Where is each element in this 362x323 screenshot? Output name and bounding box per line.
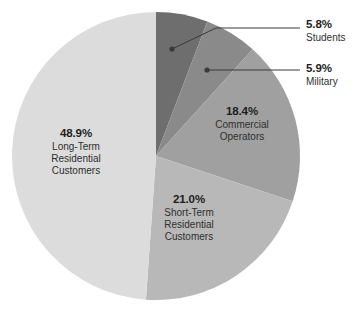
slice-label-short-term-residential-customers: 21.0% Short-Term Residential Customers: [133, 192, 245, 244]
callout-percent-students: 5.8%: [306, 17, 345, 31]
slice-percent-long-term: 48.9%: [22, 126, 130, 140]
slice-name-short-term: Short-Term Residential Customers: [133, 207, 245, 244]
callout-dot-students: [169, 46, 174, 51]
slice-name-line: Customers: [22, 165, 130, 177]
slice-name-line: Operators: [196, 131, 288, 143]
slice-name-line: Short-Term: [133, 207, 245, 219]
callout-name-students: Students: [306, 32, 345, 44]
slice-name-line: Commercial: [196, 119, 288, 131]
slice-name-line: Residential: [133, 219, 245, 231]
slice-percent-commercial: 18.4%: [196, 104, 288, 118]
slice-label-long-term-residential-customers: 48.9% Long-Term Residential Customers: [22, 126, 130, 178]
slice-name-long-term: Long-Term Residential Customers: [22, 141, 130, 178]
slice-percent-short-term: 21.0%: [133, 192, 245, 206]
slice-name-line: Long-Term: [22, 141, 130, 153]
pie-chart: 48.9% Long-Term Residential Customers 21…: [0, 0, 362, 323]
slice-name-commercial: Commercial Operators: [196, 119, 288, 143]
slice-label-commercial-operators: 18.4% Commercial Operators: [196, 104, 288, 143]
callout-name-military: Military: [306, 76, 338, 88]
slice-name-line: Customers: [133, 231, 245, 243]
callout-label-students: 5.8% Students: [306, 17, 345, 45]
slice-name-line: Residential: [22, 153, 130, 165]
callout-label-military: 5.9% Military: [306, 61, 338, 89]
callout-dot-military: [204, 67, 209, 72]
callout-percent-military: 5.9%: [306, 61, 338, 75]
